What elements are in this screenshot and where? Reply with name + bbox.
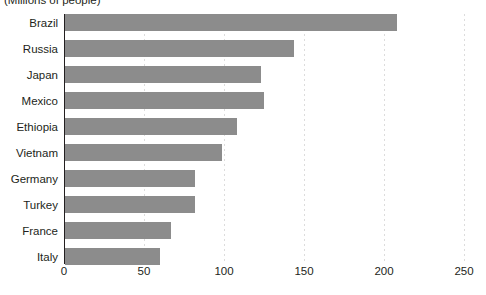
bar-row: Ethiopia	[0, 118, 486, 135]
bar-brazil	[65, 14, 397, 31]
category-label-russia: Russia	[0, 42, 58, 55]
bar-row: Russia	[0, 40, 486, 57]
bar-row: Vietnam	[0, 144, 486, 161]
bar-row: France	[0, 222, 486, 239]
x-tick-label-0: 0	[61, 264, 67, 278]
category-label-ethiopia: Ethiopia	[0, 120, 58, 133]
bar-turkey	[65, 196, 195, 213]
category-label-germany: Germany	[0, 172, 58, 185]
chart-subtitle: (Millions of people)	[4, 0, 101, 7]
bar-ethiopia	[65, 118, 237, 135]
bar-row: Brazil	[0, 14, 486, 31]
bar-row: Italy	[0, 248, 486, 265]
x-tick-label-200: 200	[374, 264, 393, 278]
category-label-mexico: Mexico	[0, 94, 58, 107]
bar-vietnam	[65, 144, 222, 161]
bar-row: Turkey	[0, 196, 486, 213]
bar-chart: (Millions of people) BrazilRussiaJapanMe…	[0, 0, 486, 295]
bar-germany	[65, 170, 195, 187]
x-tick-label-250: 250	[454, 264, 473, 278]
bar-rows: BrazilRussiaJapanMexicoEthiopiaVietnamGe…	[0, 14, 486, 265]
category-label-turkey: Turkey	[0, 198, 58, 211]
bar-russia	[65, 40, 294, 57]
category-label-brazil: Brazil	[0, 16, 58, 29]
bar-italy	[65, 248, 160, 265]
x-tick-label-50: 50	[138, 264, 151, 278]
category-label-italy: Italy	[0, 250, 58, 263]
category-label-japan: Japan	[0, 68, 58, 81]
bar-france	[65, 222, 171, 239]
x-axis: 050100150200250	[0, 264, 486, 284]
bar-japan	[65, 66, 261, 83]
bar-row: Germany	[0, 170, 486, 187]
category-label-vietnam: Vietnam	[0, 146, 58, 159]
x-tick-label-100: 100	[214, 264, 233, 278]
bar-row: Mexico	[0, 92, 486, 109]
category-label-france: France	[0, 224, 58, 237]
bar-row: Japan	[0, 66, 486, 83]
bar-mexico	[65, 92, 264, 109]
x-tick-label-150: 150	[294, 264, 313, 278]
plot-area: BrazilRussiaJapanMexicoEthiopiaVietnamGe…	[0, 14, 486, 262]
